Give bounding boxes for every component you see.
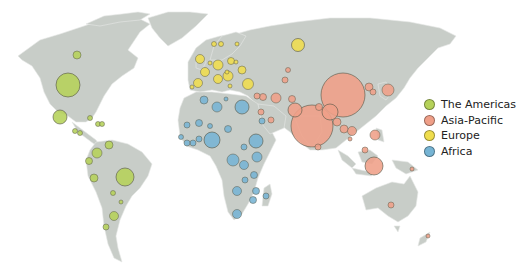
bubble-europe <box>228 84 232 88</box>
bubble-africa <box>190 140 196 146</box>
bubble-asia-pacific <box>348 137 352 141</box>
bubble-asia-pacific <box>348 127 357 136</box>
bubble-africa <box>250 197 257 204</box>
bubble-europe <box>213 60 223 70</box>
bubble-africa <box>227 154 239 166</box>
bubble-africa <box>233 210 242 219</box>
bubble-asia-pacific <box>365 157 383 175</box>
bubble-africa <box>225 126 232 133</box>
greenland <box>148 12 208 46</box>
australia <box>362 176 418 222</box>
legend-label: Asia-Pacific <box>441 114 503 127</box>
bubble-europe <box>190 85 194 89</box>
legend-swatch-icon <box>424 99 435 110</box>
bubble-asia-pacific <box>282 77 288 83</box>
bubble-africa <box>196 136 202 142</box>
bubble-the-americas <box>92 148 102 158</box>
bubble-europe <box>234 60 238 64</box>
bubble-europe <box>243 79 254 90</box>
legend-item-europe: Europe <box>424 128 516 144</box>
bubble-africa <box>251 172 258 179</box>
bubble-asia-pacific <box>316 104 323 111</box>
bubble-the-americas <box>90 174 98 182</box>
bubble-asia-pacific <box>288 103 302 117</box>
bubble-asia-pacific <box>268 117 274 123</box>
legend-label: The Americas <box>441 98 516 111</box>
legend-label: Africa <box>441 145 472 158</box>
bubble-the-americas <box>56 73 80 97</box>
legend-swatch-icon <box>424 130 435 141</box>
bubble-asia-pacific <box>271 93 281 103</box>
bubble-asia-pacific <box>370 130 380 140</box>
bubble-asia-pacific <box>370 89 376 95</box>
legend-swatch-icon <box>424 146 435 157</box>
bubble-asia-pacific <box>362 147 368 153</box>
landmass <box>18 12 456 262</box>
bubble-europe <box>212 42 217 47</box>
bubble-europe <box>235 42 239 46</box>
legend-item-africa: Africa <box>424 144 516 160</box>
bubble-the-americas <box>86 158 93 165</box>
bubble-europe <box>219 42 224 47</box>
bubble-africa <box>204 132 220 148</box>
legend: The Americas Asia-Pacific Europe Africa <box>424 97 516 159</box>
bubble-the-americas <box>73 51 81 59</box>
bubble-the-americas <box>100 122 105 127</box>
bubble-africa <box>240 161 249 170</box>
bubble-africa <box>249 134 263 148</box>
bubble-europe <box>208 61 212 65</box>
bubble-africa <box>253 188 260 195</box>
bubble-asia-pacific <box>426 234 430 238</box>
bubble-the-americas <box>110 212 119 221</box>
bubble-africa <box>242 177 248 183</box>
north-america <box>18 18 150 122</box>
bubble-asia-pacific <box>340 125 348 133</box>
bubble-africa <box>224 97 228 101</box>
legend-item-asia-pacific: Asia-Pacific <box>424 113 516 129</box>
bubble-asia-pacific <box>258 109 264 115</box>
bubble-asia-pacific <box>254 93 260 99</box>
legend-swatch-icon <box>424 115 435 126</box>
bubble-the-americas <box>116 168 134 186</box>
bubble-africa <box>179 135 184 140</box>
legend-label: Europe <box>441 129 480 142</box>
bubble-asia-pacific <box>322 104 338 120</box>
bubble-asia-pacific <box>286 68 291 73</box>
bubble-africa <box>200 96 208 104</box>
bubble-europe <box>225 70 229 74</box>
bubble-the-americas <box>111 191 116 196</box>
bubble-europe <box>238 66 246 74</box>
bubble-europe <box>292 39 305 52</box>
bubble-the-americas <box>88 116 93 121</box>
bubble-asia-pacific <box>260 94 267 101</box>
bubble-asia-pacific <box>410 167 414 171</box>
tasmania <box>394 226 400 232</box>
bubble-africa <box>252 152 262 162</box>
bubble-asia-pacific <box>388 202 394 208</box>
bubble-asia-pacific <box>382 84 394 96</box>
bubble-the-americas <box>78 131 83 136</box>
bubble-europe <box>201 68 210 77</box>
bubble-africa <box>196 120 203 127</box>
bubble-the-americas <box>103 224 109 230</box>
bubble-africa <box>235 100 249 114</box>
bubble-the-americas <box>119 200 123 204</box>
bubble-africa <box>233 187 242 196</box>
bubble-africa <box>241 144 247 150</box>
bubble-the-americas <box>73 129 78 134</box>
bubble-europe <box>214 75 223 84</box>
bubble-africa <box>184 122 190 128</box>
bubble-europe <box>196 55 205 64</box>
indonesia-sumatra <box>338 150 356 168</box>
bubble-africa <box>259 118 265 124</box>
new-guinea <box>392 160 418 174</box>
bubble-the-americas <box>53 110 67 124</box>
bubble-asia-pacific <box>315 144 321 150</box>
bubble-europe <box>228 58 235 65</box>
bubble-africa <box>184 140 190 146</box>
bubble-asia-pacific <box>289 96 296 103</box>
legend-item-the-americas: The Americas <box>424 97 516 113</box>
bubble-the-americas <box>105 141 113 149</box>
bubble-europe <box>194 79 203 88</box>
bubble-asia-pacific <box>333 118 341 126</box>
